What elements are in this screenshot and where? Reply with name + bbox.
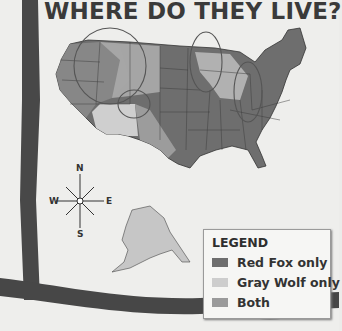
compass-south: S bbox=[77, 229, 83, 239]
southwest-wolf-region bbox=[92, 104, 138, 136]
gray-wolf-swatch bbox=[212, 278, 228, 287]
alaska-inset bbox=[112, 206, 190, 272]
compass-west: W bbox=[49, 196, 59, 206]
compass-rose-icon bbox=[56, 174, 104, 228]
compass-north: N bbox=[76, 163, 84, 173]
legend-title: LEGEND bbox=[212, 235, 268, 250]
both-swatch bbox=[212, 298, 228, 307]
legend-item-gray-wolf: Gray Wolf only bbox=[212, 274, 340, 290]
compass-east: E bbox=[106, 196, 112, 206]
red-fox-swatch bbox=[212, 258, 228, 267]
legend-item-both: Both bbox=[212, 294, 270, 310]
branch-frame-left bbox=[20, 0, 40, 300]
legend-item-red-fox: Red Fox only bbox=[212, 254, 327, 270]
legend: LEGEND Red Fox only Gray Wolf only Both bbox=[203, 229, 331, 319]
